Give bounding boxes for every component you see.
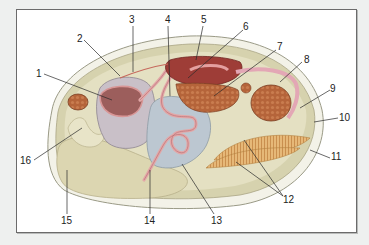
label-2: 2 xyxy=(77,34,83,44)
label-11: 11 xyxy=(331,152,341,162)
label-4: 4 xyxy=(165,15,171,25)
anterior-adductor-muscle xyxy=(68,94,88,110)
label-9: 9 xyxy=(330,84,336,94)
label-13: 13 xyxy=(211,216,222,226)
label-7: 7 xyxy=(277,42,283,52)
label-10: 10 xyxy=(339,113,350,123)
label-3: 3 xyxy=(129,15,135,25)
label-1: 1 xyxy=(36,69,42,79)
label-6: 6 xyxy=(243,22,249,32)
label-8: 8 xyxy=(304,55,310,65)
clam-anatomy-illustration xyxy=(0,0,369,245)
label-16: 16 xyxy=(20,156,31,166)
stomach xyxy=(100,86,142,116)
posterior-adductor-muscle xyxy=(251,85,291,121)
label-5: 5 xyxy=(201,15,207,25)
label-14: 14 xyxy=(144,216,155,226)
label-15: 15 xyxy=(61,216,72,226)
retractor-muscle xyxy=(241,83,251,93)
label-12: 12 xyxy=(283,195,294,205)
